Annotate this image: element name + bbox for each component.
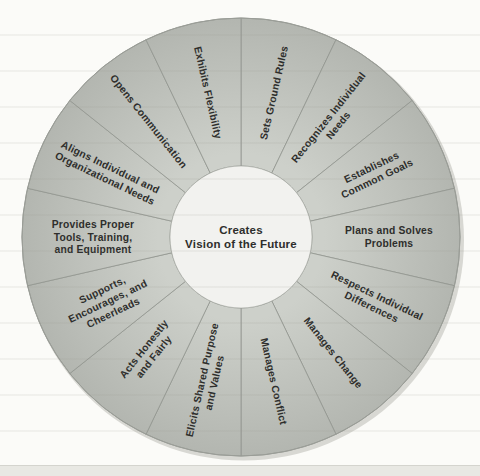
wheel-center (170, 166, 312, 308)
leadership-wheel-diagram: Sets Ground RulesRecognizes IndividualNe… (0, 0, 480, 476)
segment-label: Provides ProperTools, Training,and Equip… (52, 219, 135, 255)
figure-canvas: Sets Ground RulesRecognizes IndividualNe… (0, 0, 480, 476)
